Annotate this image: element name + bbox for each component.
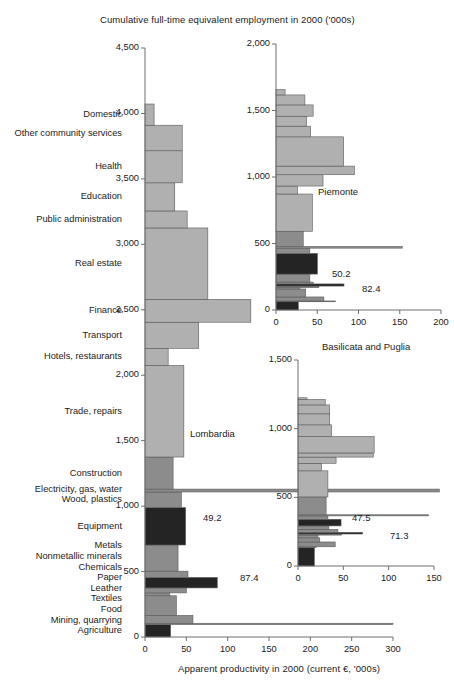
bar-equipment	[298, 519, 341, 526]
bar-metals	[298, 526, 329, 529]
xtick-basilicata-puglia-0: 0	[278, 573, 318, 583]
value-label-basilicata-puglia-equipment: 47.5	[352, 512, 371, 523]
bar-leather	[298, 535, 318, 538]
bar-textiles	[298, 538, 320, 542]
bar-domestic	[298, 398, 307, 400]
figure-root: Cumulative full-time equivalent employme…	[0, 0, 454, 686]
bar-agriculture	[298, 547, 314, 566]
ytick-basilicata-puglia-1500: 1,500	[246, 354, 292, 364]
bar-education	[298, 414, 330, 425]
panel-basilicata-puglia: 05001,0001,500050100150Basilicata and Pu…	[0, 0, 454, 686]
bar-trade-repairs	[298, 471, 328, 497]
bar-nonmetallic-minerals	[298, 529, 338, 532]
bar-wood-plastics	[298, 516, 328, 519]
xtick-basilicata-puglia-100: 100	[369, 573, 409, 583]
ytick-basilicata-puglia-1000: 1,000	[246, 423, 292, 433]
bar-hotels-restaurants	[298, 463, 322, 471]
ytick-basilicata-puglia-0: 0	[246, 560, 292, 570]
bar-construction	[298, 497, 326, 515]
bar-other-community-services	[298, 399, 325, 404]
bar-health	[298, 405, 330, 414]
panel-title-basilicata-puglia: Basilicata and Puglia	[322, 341, 410, 352]
xtick-basilicata-puglia-150: 150	[414, 573, 454, 583]
bar-series	[298, 398, 429, 566]
bar-transport	[298, 457, 336, 463]
value-label-basilicata-puglia-chemicals: 71.3	[390, 530, 409, 541]
bar-real-estate	[298, 436, 374, 452]
bar-public-administration	[298, 425, 332, 437]
bar-food	[298, 542, 335, 547]
ytick-basilicata-puglia-500: 500	[246, 491, 292, 501]
bar-finance	[298, 453, 373, 457]
xtick-basilicata-puglia-50: 50	[323, 573, 363, 583]
